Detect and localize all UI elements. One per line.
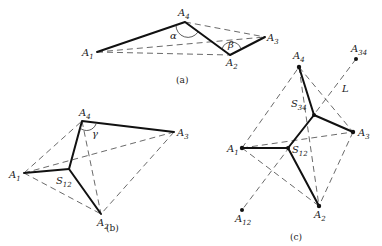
- caption-a: (a): [176, 75, 188, 85]
- label-b-A3: A3: [176, 127, 189, 141]
- label-c-A4: A4: [292, 50, 305, 64]
- label-a-A4: A4: [177, 7, 190, 21]
- label-c-L: L: [341, 83, 349, 94]
- caption-c: (c): [290, 232, 302, 242]
- label-a-A3: A3: [266, 32, 279, 46]
- label-c-A2: A2: [313, 209, 326, 223]
- label-b-A4: A4: [78, 107, 91, 121]
- label-b-A1: A1: [8, 169, 21, 183]
- label-c-S34: S34: [291, 98, 307, 112]
- label-gamma: γ: [92, 128, 98, 139]
- label-a-A1: A1: [81, 47, 94, 61]
- label-beta: β: [227, 39, 234, 50]
- label-c-A12: A12: [234, 213, 252, 227]
- label-alpha: α: [170, 30, 177, 41]
- angle-alpha-arc: [176, 25, 198, 37]
- panel-a: A1 A4 A3 A2 α β (a): [81, 7, 279, 85]
- panel-c: A4 A34 S34 L A3 A1 S12 A2 A12 (c): [226, 43, 370, 242]
- label-c-A1: A1: [226, 143, 239, 157]
- label-c-S12: S12: [292, 144, 308, 158]
- caption-b: (b): [106, 223, 119, 233]
- label-b-S12: S12: [56, 175, 72, 189]
- label-c-A34: A34: [350, 43, 367, 57]
- label-a-A2: A2: [225, 57, 238, 71]
- steiner-tree-diagram: A1 A4 A3 A2 α β (a) A4 A3 A1 S12 A2 γ (b…: [0, 0, 382, 246]
- panel-b: A4 A3 A1 S12 A2 γ (b): [8, 107, 189, 233]
- label-c-A3: A3: [357, 127, 370, 141]
